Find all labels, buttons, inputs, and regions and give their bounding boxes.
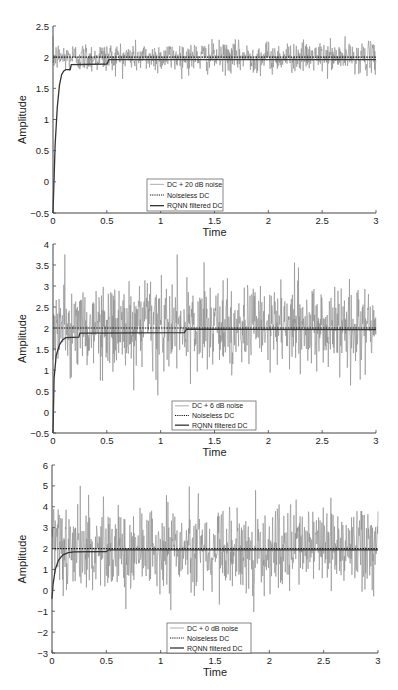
x-tick-label: 2	[267, 655, 272, 666]
legend: DC + 6 dB noiseNoiseless DCRQNN filtered…	[172, 401, 256, 430]
legend-entry: RQNN filtered DC	[192, 422, 248, 430]
x-tick-label: 1	[158, 655, 163, 666]
legend-entry: RQNN filtered DC	[187, 645, 243, 653]
y-tick-label: 0.5	[36, 386, 49, 397]
y-tick-label: 3.5	[36, 260, 49, 271]
x-tick-label: 1.5	[208, 435, 221, 446]
y-tick-label: 0.5	[36, 145, 49, 156]
subplot-20db: −0.500.511.522.500.511.522.53TimeAmplitu…	[16, 21, 379, 239]
legend-entry: DC + 6 dB noise	[192, 402, 243, 409]
y-tick-label: 2.5	[36, 21, 49, 32]
legend-entry: RQNN filtered DC	[167, 202, 223, 210]
x-axis-label: Time	[202, 446, 226, 458]
y-tick-label: 4	[44, 239, 49, 250]
x-tick-label: 0	[49, 655, 54, 666]
x-tick-label: 2	[266, 435, 271, 446]
y-tick-label: −0.5	[30, 208, 49, 219]
y-tick-label: 1	[44, 114, 49, 125]
y-tick-label: 2	[44, 52, 49, 63]
y-tick-label: −2	[37, 627, 48, 638]
x-axis-label: Time	[203, 666, 227, 678]
y-tick-label: 3	[44, 281, 49, 292]
y-tick-label: 1	[43, 564, 48, 575]
legend: DC + 0 dB noiseNoiseless DCRQNN filtered…	[167, 623, 251, 653]
x-tick-label: 0.5	[100, 655, 113, 666]
y-tick-label: 0	[44, 407, 49, 418]
subplot-0db: −3−2−1012345600.511.522.53TimeAmplitudeD…	[16, 460, 381, 679]
x-tick-label: 1.5	[208, 655, 221, 666]
subplot-6db: −0.500.511.522.533.5400.511.522.53TimeAm…	[16, 239, 379, 459]
legend-entry: Noiseless DC	[192, 412, 234, 419]
x-tick-label: 3	[373, 435, 378, 446]
x-tick-label: 2.5	[316, 215, 329, 226]
y-tick-label: 5	[43, 480, 48, 491]
y-tick-label: −0.5	[30, 428, 49, 439]
y-tick-label: 1	[44, 365, 49, 376]
y-axis-label: Amplitude	[16, 535, 28, 584]
y-tick-label: 6	[43, 460, 48, 471]
x-tick-label: 2	[266, 215, 271, 226]
noisy-signal-line	[53, 36, 376, 79]
y-tick-label: 1.5	[36, 83, 49, 94]
x-tick-label: 1	[158, 215, 163, 226]
x-tick-label: 3	[373, 215, 378, 226]
x-tick-label: 1	[158, 435, 163, 446]
y-tick-label: −1	[37, 606, 48, 617]
legend-entry: Noiseless DC	[187, 635, 229, 642]
x-tick-label: 0.5	[100, 435, 113, 446]
legend: DC + 20 dB noiseNoiseless DCRQNN filtere…	[147, 179, 223, 211]
noisy-signal-line	[53, 255, 376, 396]
legend-entry: DC + 0 dB noise	[187, 625, 238, 632]
y-tick-label: 4	[43, 501, 48, 512]
x-tick-label: 0	[50, 215, 55, 226]
x-tick-label: 0.5	[100, 215, 113, 226]
x-tick-label: 1.5	[208, 215, 221, 226]
x-axis-label: Time	[202, 226, 226, 238]
y-tick-label: 0	[44, 176, 49, 187]
legend-entry: DC + 20 dB noise	[167, 181, 222, 188]
y-tick-label: −3	[37, 648, 48, 659]
y-tick-label: 3	[43, 522, 48, 533]
y-tick-label: 2	[44, 323, 49, 334]
y-tick-label: 2.5	[36, 302, 49, 313]
figure-canvas: −0.500.511.522.500.511.522.53TimeAmplitu…	[0, 0, 398, 690]
x-tick-label: 2.5	[316, 435, 329, 446]
y-tick-label: 1.5	[36, 344, 49, 355]
y-tick-label: 2	[43, 543, 48, 554]
x-tick-label: 3	[375, 655, 380, 666]
x-tick-label: 2.5	[317, 655, 330, 666]
y-axis-label: Amplitude	[16, 95, 28, 144]
x-tick-label: 0	[50, 435, 55, 446]
y-axis-label: Amplitude	[16, 314, 28, 363]
legend-entry: Noiseless DC	[167, 192, 209, 199]
y-tick-label: 0	[43, 585, 48, 596]
